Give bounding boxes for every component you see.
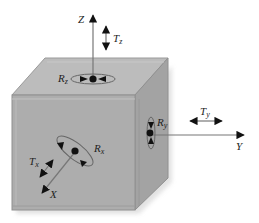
tx-label: Tx	[29, 156, 39, 169]
ry-label-base: R	[157, 116, 164, 128]
tz-label-sub: z	[119, 37, 122, 46]
x-origin-dot	[71, 147, 78, 154]
rz-label: Rz	[58, 73, 68, 86]
cube-figure	[0, 0, 259, 223]
z-axis-label: Z	[78, 14, 84, 25]
z-origin-dot	[89, 75, 96, 82]
ty-label-sub: y	[206, 110, 210, 119]
tx-label-sub: x	[35, 160, 39, 169]
rz-label-sub: z	[65, 77, 68, 86]
rx-label-sub: x	[101, 147, 105, 156]
tz-label: Tz	[113, 33, 122, 46]
rx-label-base: R	[94, 142, 101, 154]
rx-label: Rx	[94, 143, 104, 156]
dof-diagram: Z Tz Rz Ty Ry Y Rx Tx X	[0, 0, 259, 223]
y-axis-label: Y	[236, 141, 242, 152]
ry-label-sub: y	[164, 121, 168, 130]
y-origin-dot	[147, 130, 154, 137]
ry-label: Ry	[157, 117, 167, 130]
ty-label: Ty	[200, 106, 210, 119]
rz-label-base: R	[58, 72, 65, 84]
x-axis-label: X	[50, 189, 57, 200]
